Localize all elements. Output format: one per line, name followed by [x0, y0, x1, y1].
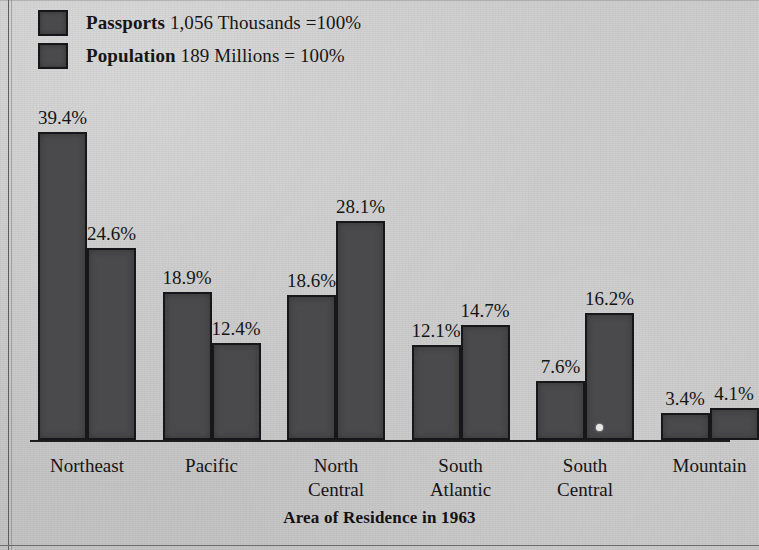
- bar-passports-south-atlantic: [412, 345, 461, 440]
- bar-population-northeast: [87, 248, 136, 440]
- bar-population-north-central: [336, 221, 385, 440]
- bar-value-label: 16.2%: [571, 288, 648, 310]
- bar-passports-mountain: [661, 413, 710, 440]
- bar-passports-north-central: [287, 295, 336, 440]
- x-axis-category-label: South Central: [514, 454, 656, 502]
- x-axis-category-label: Northeast: [16, 454, 158, 478]
- x-axis-title: Area of Residence in 1963: [0, 508, 759, 528]
- bar-population-south-central: [585, 313, 634, 440]
- chart-page: Passports 1,056 Thousands =100% Populati…: [0, 0, 759, 550]
- plot-area: 39.4%24.6%Northeast18.9%12.4%Pacific18.6…: [0, 0, 759, 550]
- bar-value-label: 4.1%: [696, 383, 759, 405]
- x-axis-category-label: Pacific: [141, 454, 283, 478]
- bar-value-label: 18.9%: [149, 267, 226, 289]
- bar-value-label: 24.6%: [73, 223, 150, 245]
- bar-passports-pacific: [163, 292, 212, 440]
- x-axis-category-label: Mountain: [639, 454, 759, 478]
- x-axis-category-label: South Atlantic: [390, 454, 532, 502]
- bar-value-label: 39.4%: [24, 107, 101, 129]
- bar-value-label: 28.1%: [322, 196, 399, 218]
- bar-passports-northeast: [38, 132, 87, 440]
- bar-value-label: 14.7%: [447, 300, 524, 322]
- bar-population-mountain: [710, 408, 759, 440]
- bar-value-label: 12.4%: [198, 318, 275, 340]
- print-speck-artifact: [596, 424, 603, 431]
- bar-population-south-atlantic: [461, 325, 510, 440]
- x-axis-baseline: [30, 440, 730, 442]
- bar-passports-south-central: [536, 381, 585, 440]
- x-axis-category-label: North Central: [265, 454, 407, 502]
- bar-population-pacific: [212, 343, 261, 440]
